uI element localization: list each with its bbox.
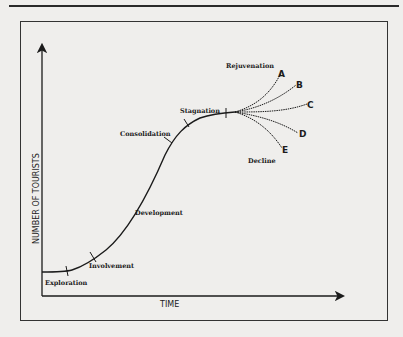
scenario-curve-e: [235, 112, 282, 148]
label-rejuvenation: Rejuvenation: [226, 62, 274, 70]
label-development: Development: [135, 209, 183, 217]
y-axis-label: NUMBER OF TOURISTS: [32, 153, 41, 244]
scenario-label-e: E: [282, 145, 288, 155]
scenario-label-b: B: [296, 80, 303, 90]
scenario-curve-c: [235, 104, 307, 112]
label-exploration: Exploration: [45, 279, 88, 287]
label-decline: Decline: [248, 157, 276, 165]
label-stagnation: Stagnation: [180, 107, 220, 115]
scenario-label-d: D: [299, 129, 306, 139]
x-axis-label: TIME: [159, 300, 179, 309]
scenario-label-c: C: [307, 100, 314, 110]
label-involvement: Involvement: [89, 262, 134, 270]
scenario-curve-b: [235, 85, 296, 112]
life-cycle-diagram: Exploration Involvement Development Cons…: [0, 0, 403, 337]
label-consolidation: Consolidation: [120, 130, 171, 138]
scenario-label-a: A: [278, 69, 285, 79]
